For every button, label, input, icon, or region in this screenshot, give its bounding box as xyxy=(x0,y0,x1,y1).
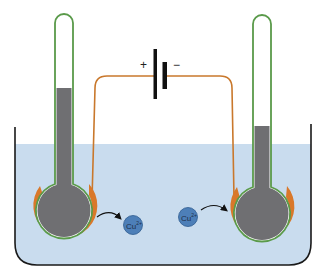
left-electrode-anode xyxy=(33,14,97,239)
battery-negative-plate xyxy=(163,62,168,89)
positive-sign: + xyxy=(140,58,147,72)
ion-left: Cu2+ xyxy=(124,216,143,235)
ion-right: Cu2+ xyxy=(179,208,198,227)
battery-positive-plate xyxy=(154,49,158,99)
diagram-canvas: + − Cu2+ Cu2+ xyxy=(0,0,325,277)
negative-sign: − xyxy=(173,58,180,72)
electrolysis-diagram: + − Cu2+ Cu2+ xyxy=(0,0,325,277)
right-electrode-cathode xyxy=(230,15,294,242)
battery: + − xyxy=(140,49,180,99)
